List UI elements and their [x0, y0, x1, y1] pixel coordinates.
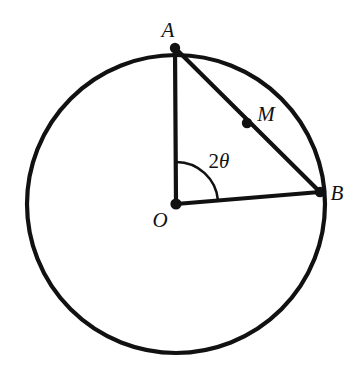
point-dot-m	[242, 118, 252, 128]
angle-multiplier: 2	[209, 149, 220, 173]
point-dot-b	[315, 187, 325, 197]
angle-label-2theta: 2θ	[209, 151, 230, 172]
geometry-canvas	[0, 0, 363, 369]
geometry-diagram: A B M O 2θ	[0, 0, 363, 369]
point-label-a: A	[162, 20, 175, 41]
point-dot-o	[170, 198, 181, 209]
segment-radius-ob	[176, 192, 320, 204]
theta-symbol: θ	[219, 149, 229, 173]
point-label-m: M	[257, 104, 275, 125]
segment-radius-oa	[175, 48, 176, 204]
point-label-o: O	[152, 210, 167, 231]
point-dot-a	[170, 43, 180, 53]
point-label-b: B	[331, 183, 344, 204]
